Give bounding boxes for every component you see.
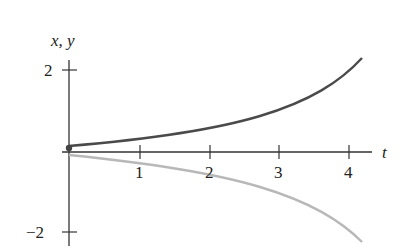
y-tick-label-2: 2 bbox=[44, 61, 53, 80]
series-y-curve bbox=[69, 155, 362, 242]
series-x-curve bbox=[69, 58, 362, 146]
y-tick-label-neg2: −2 bbox=[26, 223, 44, 242]
x-tick-label-2: 2 bbox=[205, 163, 214, 182]
x-tick-label-3: 3 bbox=[274, 163, 283, 182]
y-axis-label: x, y bbox=[50, 31, 75, 50]
chart: x, y 2 −2 1 2 3 4 t bbox=[0, 0, 408, 252]
x-tick-label-4: 4 bbox=[344, 163, 353, 182]
x-axis-label: t bbox=[382, 143, 388, 162]
origin-point bbox=[66, 145, 72, 151]
x-tick-label-1: 1 bbox=[135, 163, 144, 182]
